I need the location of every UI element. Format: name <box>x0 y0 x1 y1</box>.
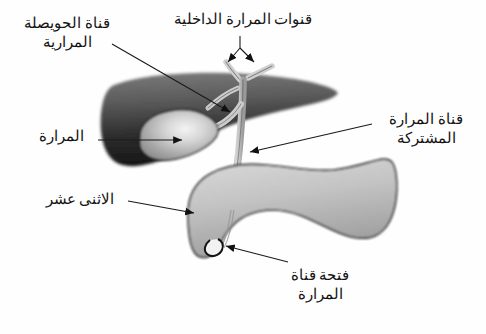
label-duct-opening-line2: المرارة <box>272 285 368 304</box>
leader-duct-opening <box>226 246 288 262</box>
label-cystic-duct: قناة الحويصلة المرارية <box>8 14 126 52</box>
label-common-bile-duct: قناة المرارة المشتركة <box>374 110 478 148</box>
label-duodenum: الاثنى عشر <box>28 190 132 209</box>
leader-duodenum <box>128 201 194 213</box>
label-duct-opening-line1: فتحة قناة <box>272 266 368 285</box>
liver-shape <box>101 73 338 166</box>
label-cystic-duct-line2: المرارية <box>8 33 126 52</box>
gallbladder-shape <box>140 110 218 161</box>
label-duct-opening: فتحة قناة المرارة <box>272 266 368 304</box>
label-common-bile-duct-line2: المشتركة <box>374 129 478 148</box>
leader-intrahepatic-right <box>240 48 254 62</box>
label-cystic-duct-line1: قناة الحويصلة <box>8 14 126 33</box>
label-intrahepatic-line1: قنوات المرارة الداخلية <box>170 10 316 29</box>
label-gallbladder-line1: المرارة <box>18 127 104 146</box>
label-intrahepatic-ducts: قنوات المرارة الداخلية <box>170 10 316 29</box>
label-duodenum-line1: الاثنى عشر <box>28 190 132 209</box>
label-gallbladder: المرارة <box>18 127 104 146</box>
label-common-bile-duct-line1: قناة المرارة <box>374 110 478 129</box>
leader-intrahepatic-left <box>228 48 240 62</box>
leader-common-bile-duct <box>250 124 372 152</box>
diagram-canvas: قناة الحويصلة المرارية المرارة قنوات الم… <box>0 0 486 334</box>
